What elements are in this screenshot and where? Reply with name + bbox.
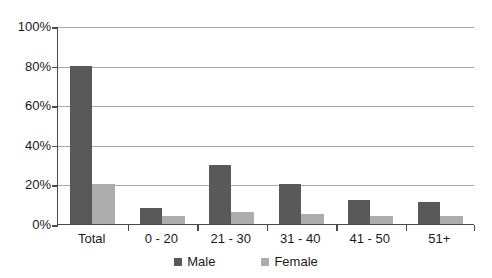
- bar-chart: 100% 80% 60% 40% 20% 0%: [0, 0, 492, 278]
- x-axis-labels: Total 0 - 20 21 - 30 31 - 40 41 - 50 51+: [57, 231, 474, 249]
- bar-group-51plus: [406, 27, 476, 224]
- plot-area: [57, 27, 474, 225]
- bar-male-0-20: [140, 208, 162, 224]
- bar-group-41-50: [336, 27, 406, 224]
- x-axis-label-total: Total: [57, 231, 127, 247]
- bar-male-total: [70, 66, 92, 224]
- x-axis-label-31-40: 31 - 40: [266, 231, 336, 247]
- bar-female-51plus: [440, 216, 463, 224]
- legend-label-female: Female: [274, 254, 317, 269]
- bar-male-41-50: [348, 200, 370, 224]
- x-axis-label-51plus: 51+: [405, 231, 475, 247]
- legend-swatch-female-icon: [261, 258, 269, 266]
- bar-male-51plus: [418, 202, 440, 224]
- bar-group-0-20: [128, 27, 198, 224]
- y-axis-labels: 100% 80% 60% 40% 20% 0%: [0, 27, 51, 225]
- y-axis-label-80: 80%: [7, 60, 51, 73]
- y-axis-label-100: 100%: [7, 20, 51, 33]
- chart-legend: Male Female: [0, 254, 492, 269]
- y-axis-label-60: 60%: [7, 99, 51, 112]
- legend-item-female: Female: [261, 254, 317, 269]
- bar-female-31-40: [301, 214, 324, 224]
- bar-male-21-30: [209, 165, 231, 224]
- bar-male-31-40: [279, 184, 301, 224]
- bars-layer: [58, 27, 474, 224]
- bar-group-21-30: [197, 27, 267, 224]
- legend-label-male: Male: [187, 254, 215, 269]
- y-axis-label-20: 20%: [7, 178, 51, 191]
- legend-swatch-male-icon: [174, 258, 182, 266]
- bar-female-41-50: [370, 216, 393, 224]
- x-axis-label-0-20: 0 - 20: [127, 231, 197, 247]
- legend-item-male: Male: [174, 254, 215, 269]
- y-axis-label-0: 0%: [7, 218, 51, 231]
- bar-female-21-30: [231, 212, 254, 224]
- bar-female-0-20: [162, 216, 185, 224]
- bar-group-31-40: [267, 27, 337, 224]
- x-axis-label-41-50: 41 - 50: [335, 231, 405, 247]
- bar-group-total: [58, 27, 128, 224]
- y-tick-0: [52, 225, 58, 227]
- bar-female-total: [92, 184, 115, 224]
- x-axis-label-21-30: 21 - 30: [196, 231, 266, 247]
- y-axis-label-40: 40%: [7, 139, 51, 152]
